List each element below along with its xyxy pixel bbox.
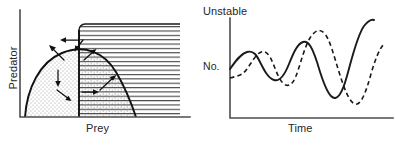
predator-prey-figure: Predator Prey Unstable No. Time — [0, 0, 395, 145]
isocline-phase-plane-panel: Predator Prey — [0, 0, 198, 145]
vector-left-icon — [60, 37, 79, 43]
predator-axis-label: Predator — [7, 33, 19, 103]
oscillation-axes — [230, 18, 393, 118]
prey-axis-label: Prey — [86, 122, 109, 134]
number-axis-label: No. — [203, 60, 220, 72]
unstable-oscillation-panel: Unstable No. Time — [197, 0, 395, 145]
unstable-annotation-label: Unstable — [203, 5, 247, 17]
time-axis-label: Time — [288, 122, 312, 134]
